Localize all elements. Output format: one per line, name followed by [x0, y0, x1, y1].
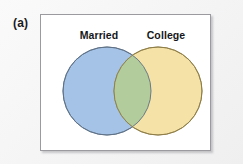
- venn-label-married: Married: [80, 30, 119, 41]
- venn-figure: (a) Married College: [0, 0, 243, 164]
- venn-label-college: College: [147, 30, 186, 41]
- venn-diagram-svg: [0, 0, 243, 164]
